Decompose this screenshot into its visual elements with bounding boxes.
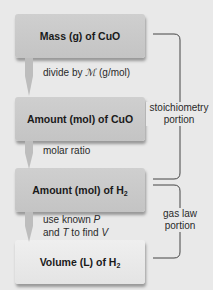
stoichiometry-portion-label: stoichiometry portion [146, 102, 212, 126]
bracket-lines [0, 0, 213, 290]
gas-law-portion-label: gas law portion [160, 208, 200, 232]
